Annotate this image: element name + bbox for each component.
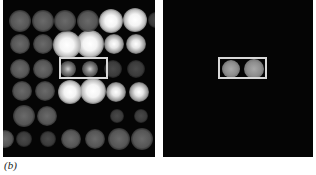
figure-panel-label: (b): [4, 159, 17, 171]
fluorescent-spot: [110, 109, 124, 123]
fluorescent-spot: [129, 82, 149, 102]
fluorescent-spot: [9, 10, 31, 32]
fluorescent-spot: [123, 8, 147, 32]
fluorescent-spot: [33, 34, 53, 54]
fluorescent-spot: [77, 10, 99, 32]
spot-grid-image: [3, 0, 155, 157]
fluorescent-spot: [58, 80, 82, 104]
fluorescent-spot: [108, 128, 130, 150]
fluorescent-spot: [104, 34, 124, 54]
fluorescent-spot: [33, 59, 53, 79]
fluorescent-spot: [53, 31, 81, 59]
fluorescent-spot: [85, 129, 105, 149]
highlight-box: [218, 57, 267, 79]
fluorescent-spot: [37, 106, 57, 126]
highlight-box: [59, 57, 108, 79]
fluorescent-spot: [106, 82, 126, 102]
fluorescent-spot: [99, 9, 123, 33]
fluorescent-spot: [40, 131, 56, 147]
fluorescent-spot: [3, 130, 14, 148]
isolated-pair-image: [163, 0, 313, 157]
fluorescent-spot: [54, 10, 76, 32]
fluorescent-spot: [80, 78, 106, 104]
fluorescent-spot: [61, 129, 81, 149]
fluorescent-spot: [127, 60, 145, 78]
fluorescent-spot: [10, 34, 30, 54]
fluorescent-spot: [12, 81, 32, 101]
fluorescent-spot: [134, 109, 148, 123]
fluorescent-spot: [16, 131, 32, 147]
fluorescent-spot: [10, 59, 30, 79]
fluorescent-spot: [35, 81, 55, 101]
fluorescent-spot: [13, 105, 35, 127]
fluorescent-spot: [131, 128, 153, 150]
fluorescent-spot: [32, 10, 54, 32]
fluorescent-spot: [148, 12, 155, 28]
fluorescent-spot: [126, 34, 146, 54]
